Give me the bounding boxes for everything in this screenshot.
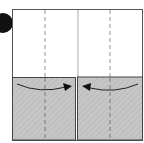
step-marker-icon — [0, 13, 13, 33]
origami-diagram — [0, 0, 144, 143]
